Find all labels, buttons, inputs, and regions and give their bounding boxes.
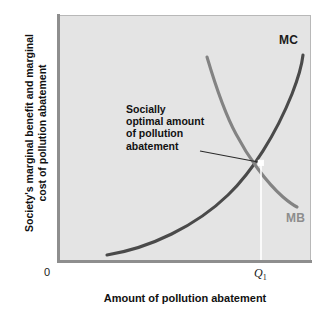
mb-curve-path	[207, 57, 297, 207]
pollution-abatement-chart: MC MB Socially optimal amount of polluti…	[0, 0, 329, 316]
mb-curve-label: MB	[286, 211, 305, 225]
socially-optimal-annotation: Socially optimal amount of pollution aba…	[126, 103, 208, 152]
mc-curve-path	[107, 55, 303, 255]
annotation-line-1: Socially	[126, 103, 208, 115]
x-tick-label-q1: Q1	[254, 266, 267, 282]
y-axis-title: Society's marginal benefit and marginal …	[23, 23, 49, 243]
y-axis-title-line-1: Society's marginal benefit and marginal	[23, 23, 36, 243]
annotation-line-2: optimal amount	[126, 115, 208, 127]
q1-base: Q	[254, 266, 263, 280]
origin-label: 0	[44, 266, 50, 278]
q1-subscript: 1	[263, 273, 267, 282]
y-axis-title-line-2: cost of pollution abatement	[36, 23, 49, 243]
mc-curve-label: MC	[279, 33, 298, 47]
annotation-line-4: abatement	[126, 140, 208, 152]
x-axis-title: Amount of pollution abatement	[59, 292, 311, 304]
annotation-line-3: of pollution	[126, 127, 208, 139]
equilibrium-point-marker	[258, 160, 263, 165]
